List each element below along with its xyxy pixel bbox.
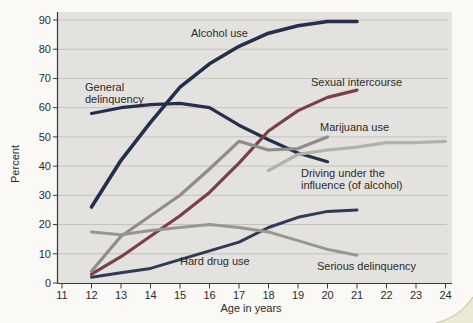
x-tick-label-11: 11 <box>56 289 67 301</box>
general-delinquency-label: delinquency <box>85 93 144 105</box>
x-tick-label-17: 17 <box>233 289 245 301</box>
x-tick-label-15: 15 <box>174 289 186 301</box>
y-tick-label-70: 70 <box>39 72 51 84</box>
risk-behavior-line-chart-figure: 1112131415161718192021222324010203040506… <box>0 0 473 323</box>
line-chart: 1112131415161718192021222324010203040506… <box>0 0 473 323</box>
y-axis-title: Percent <box>9 135 23 193</box>
x-tick-label-19: 19 <box>292 289 304 301</box>
x-tick-label-18: 18 <box>262 289 274 301</box>
x-axis-title: Age in years <box>196 302 306 314</box>
sexual-intercourse-label: Sexual intercourse <box>311 76 402 88</box>
x-tick-label-21: 21 <box>351 289 363 301</box>
y-tick-label-50: 50 <box>39 131 51 143</box>
x-tick-label-14: 14 <box>144 289 156 301</box>
page-curl-corner <box>436 297 473 323</box>
driving-under-influence-label: Driving under the <box>301 167 385 179</box>
hard-drug-use-label: Hard drug use <box>180 255 250 267</box>
y-tick-label-60: 60 <box>39 101 51 113</box>
general-delinquency-label: General <box>85 81 124 93</box>
x-tick-label-24: 24 <box>439 289 451 301</box>
y-tick-label-80: 80 <box>39 43 51 55</box>
x-tick-label-22: 22 <box>380 289 392 301</box>
x-tick-label-12: 12 <box>85 289 97 301</box>
x-tick-label-23: 23 <box>410 289 422 301</box>
x-tick-label-13: 13 <box>115 289 127 301</box>
y-tick-label-0: 0 <box>45 277 51 289</box>
y-tick-label-10: 10 <box>39 248 51 260</box>
y-tick-label-30: 30 <box>39 189 51 201</box>
y-tick-label-90: 90 <box>39 14 51 26</box>
y-tick-label-20: 20 <box>39 218 51 230</box>
x-tick-label-16: 16 <box>203 289 215 301</box>
marijuana-use-label: Marijuana use <box>320 121 389 133</box>
serious-delinquency-label: Serious delinquency <box>317 260 417 272</box>
alcohol-use-label: Alcohol use <box>191 27 248 39</box>
x-tick-label-20: 20 <box>321 289 333 301</box>
y-tick-label-40: 40 <box>39 160 51 172</box>
driving-under-influence-label: influence (of alcohol) <box>301 179 403 191</box>
